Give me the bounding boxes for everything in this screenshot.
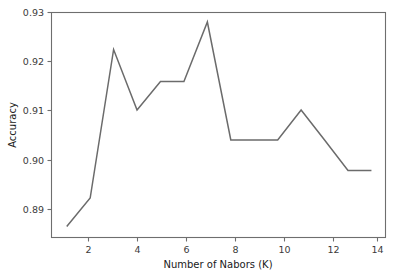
x-tick-label: 4 (134, 244, 140, 255)
x-tick-label: 10 (278, 244, 290, 255)
x-tick-label: 12 (327, 244, 339, 255)
x-axis-title: Number of Nabors (K) (163, 259, 272, 270)
y-tick-label: 0.89 (23, 204, 44, 215)
y-tick-label: 0.91 (23, 105, 44, 116)
x-tick-label: 2 (85, 244, 91, 255)
x-tick-label: 14 (371, 244, 383, 255)
y-tick-label: 0.90 (23, 155, 44, 166)
x-tick-label: 8 (232, 244, 238, 255)
chart-figure: 0.93 0.92 0.91 0.90 0.89 2 4 6 8 10 12 1… (0, 0, 400, 273)
y-axis-title: Accuracy (7, 102, 18, 148)
x-tick-label: 6 (183, 244, 189, 255)
accuracy-vs-k-line-chart: 0.93 0.92 0.91 0.90 0.89 2 4 6 8 10 12 1… (0, 0, 400, 273)
y-tick-label: 0.92 (23, 56, 44, 67)
y-tick-label: 0.93 (23, 7, 44, 18)
